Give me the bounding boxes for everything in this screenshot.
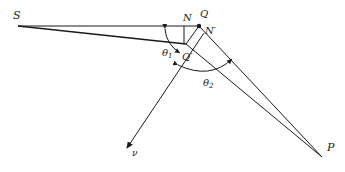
label-P: P bbox=[326, 141, 335, 154]
label-nu: ν bbox=[132, 148, 138, 158]
label-N-prime: N′ bbox=[204, 25, 217, 36]
point-Q bbox=[197, 24, 201, 28]
refraction-diagram: S N Q N′ Q′ P ν θ1 θ2 bbox=[0, 0, 345, 172]
label-theta2: θ2 bbox=[203, 77, 214, 90]
line-SQprime bbox=[18, 26, 186, 44]
line-QprimeP bbox=[186, 44, 322, 157]
label-theta1: θ1 bbox=[162, 47, 173, 60]
label-S: S bbox=[13, 9, 21, 22]
label-N: N bbox=[182, 12, 193, 23]
diagram-svg: S N Q N′ Q′ P ν θ1 θ2 bbox=[0, 0, 345, 172]
label-Q-prime: Q′ bbox=[182, 51, 193, 62]
label-Q: Q bbox=[200, 8, 208, 19]
line-QQprime bbox=[186, 26, 199, 44]
line-QP bbox=[199, 26, 322, 157]
